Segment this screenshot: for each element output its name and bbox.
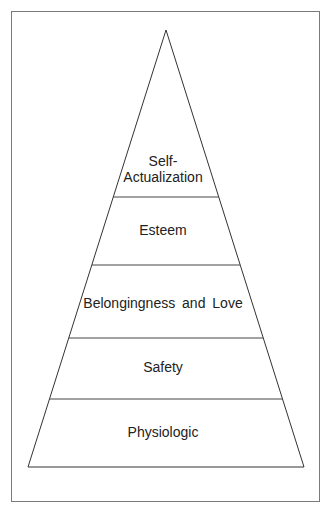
level-belongingness-and-love: Belongingness and Love [0, 295, 326, 311]
level-esteem: Esteem [0, 222, 326, 238]
level-self-actualization-line1: Self- [0, 153, 326, 169]
level-self-actualization-line2: Actualization [0, 169, 326, 185]
level-safety: Safety [0, 359, 326, 375]
level-physiologic: Physiologic [0, 424, 326, 440]
